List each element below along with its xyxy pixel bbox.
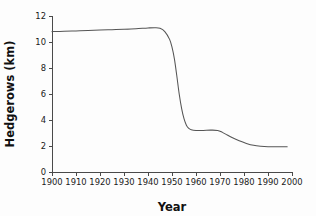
x-tick-label: 1980: [233, 177, 254, 187]
y-tick-label: 8: [41, 63, 46, 73]
x-tick-label: 1930: [113, 177, 134, 187]
y-tick-label: 2: [41, 141, 46, 151]
x-tick-label: 1920: [89, 177, 110, 187]
data-series-line: [52, 28, 287, 147]
x-tick-label: 1960: [185, 177, 206, 187]
x-tick-label: 1940: [137, 177, 158, 187]
chart-canvas: 024681012 190019101920193019401950196019…: [0, 0, 316, 216]
x-tick-label: 1910: [65, 177, 86, 187]
y-tick-label: 10: [35, 37, 46, 47]
plot-area: 024681012 190019101920193019401950196019…: [35, 11, 302, 187]
y-tick-label: 4: [41, 115, 46, 125]
x-tick-label: 1900: [41, 177, 62, 187]
y-tick-label: 0: [41, 167, 46, 177]
x-tick-label: 2000: [281, 177, 302, 187]
y-axis-ticks: 024681012: [35, 11, 52, 177]
x-axis-title: Year: [157, 200, 187, 214]
y-tick-label: 12: [35, 11, 46, 21]
x-axis-ticks: 1900191019201930194019501960197019801990…: [41, 172, 302, 187]
y-axis-title: Hedgerows (km): [3, 41, 17, 148]
chart-figure: 024681012 190019101920193019401950196019…: [0, 0, 316, 216]
x-tick-label: 1970: [209, 177, 230, 187]
y-tick-label: 6: [41, 89, 46, 99]
x-tick-label: 1950: [161, 177, 182, 187]
x-tick-label: 1990: [257, 177, 278, 187]
